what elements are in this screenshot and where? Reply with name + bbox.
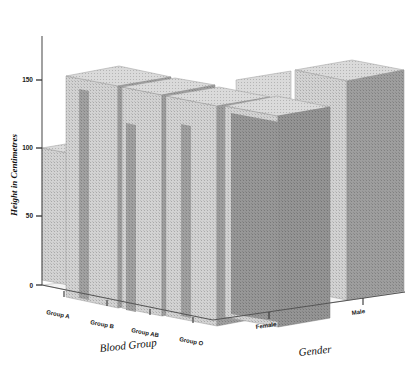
- z-tick-label-male: Male: [351, 308, 366, 316]
- y-tick-label-150: 150: [22, 76, 33, 83]
- x-axis-title: Blood Group: [99, 336, 158, 354]
- y-tick-labels: 150 100 50 0: [22, 76, 33, 289]
- z-axis-title: Gender: [298, 343, 333, 358]
- y-axis-title: Height in Centimetres: [9, 134, 19, 218]
- chart-canvas: 150 100 50 0 Height in Centimetres Group…: [0, 0, 417, 368]
- y-tick-label-50: 50: [26, 212, 34, 219]
- x-tick-label-group-a: Group A: [46, 309, 71, 320]
- y-tick-label-100: 100: [22, 144, 33, 151]
- x-tick-label-group-b: Group B: [90, 319, 115, 330]
- bar-chart-3d: 150 100 50 0 Height in Centimetres Group…: [0, 0, 417, 368]
- x-tick-label-group-o: Group O: [179, 336, 204, 347]
- y-tick-label-0: 0: [29, 282, 33, 289]
